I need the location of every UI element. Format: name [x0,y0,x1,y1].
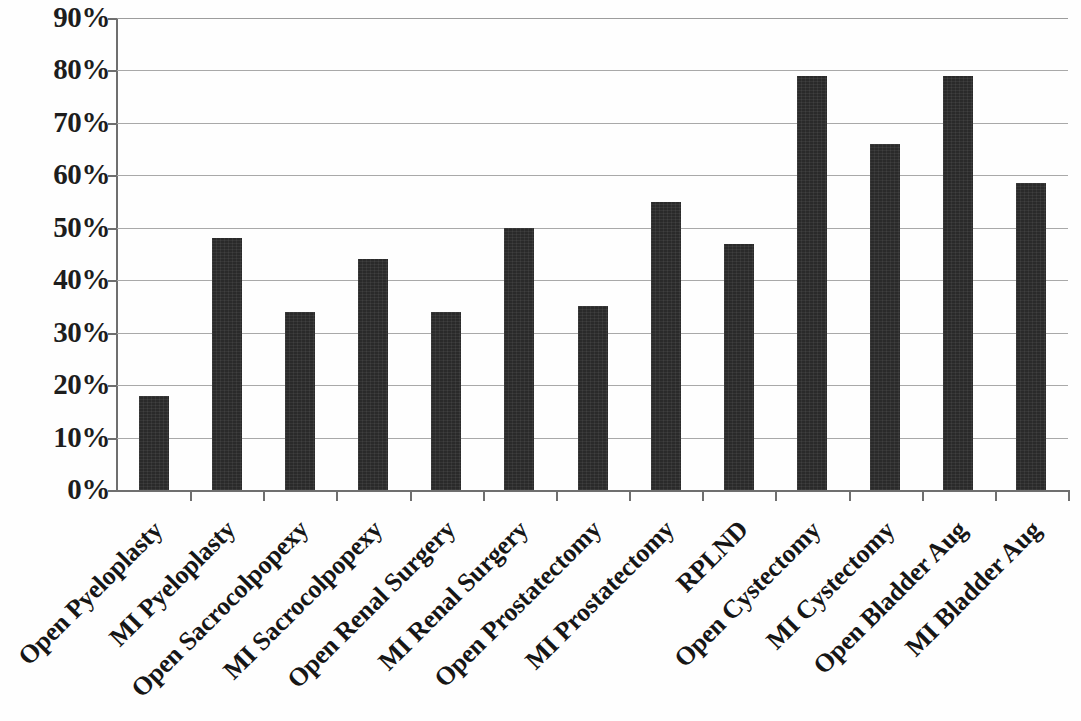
bar [797,76,827,490]
bar [504,228,534,490]
bar [1016,183,1046,490]
y-axis-tick-mark [108,123,117,125]
y-axis-tick-label: 0% [2,475,110,504]
y-axis-tick-mark [108,280,117,282]
bar [724,244,754,490]
y-axis-tick-mark [108,438,117,440]
bar [285,312,315,490]
y-axis-tick-label: 10% [2,423,110,452]
y-axis-tick-mark [108,228,117,230]
y-axis-tick-label: 70% [2,108,110,137]
bar [651,202,681,490]
y-axis-tick-label: 80% [2,55,110,84]
bar [578,306,608,490]
y-axis-tick-mark [108,385,117,387]
bar [431,312,461,490]
y-axis-tick-label: 90% [2,3,110,32]
y-axis-tick-mark [108,18,117,20]
bar-series [117,18,1068,490]
y-axis-tick-label: 60% [2,160,110,189]
y-axis-tick-mark [108,70,117,72]
y-axis-tick-mark [108,333,117,335]
x-axis-category-labels: Open PyeloplastyMI PyeloplastyOpen Sacro… [117,492,1077,721]
y-axis-tick-mark [108,490,117,492]
x-axis-category-label: MI Bladder Aug [901,516,1046,661]
y-axis-tick-label: 30% [2,318,110,347]
plot-area [117,18,1068,490]
bar [212,238,242,490]
bar [139,396,169,490]
y-axis-tick-label: 20% [2,370,110,399]
y-axis-tick-label: 40% [2,265,110,294]
y-axis-tick-mark [108,175,117,177]
bar-chart: 90%80%70%60%50%40%30%20%10%0% Open Pyelo… [0,0,1081,721]
y-axis-tick-label: 50% [2,213,110,242]
bar [870,144,900,490]
bar [943,76,973,490]
bar [358,259,388,490]
